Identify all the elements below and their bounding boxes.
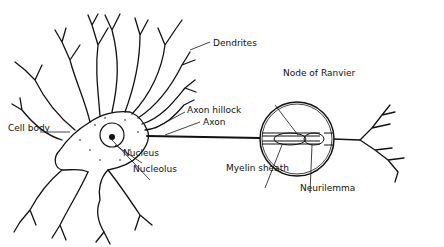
label-cell-body: Cell body (8, 123, 50, 133)
neuron-diagram: Dendrites Axon hillock Axon Cell body Nu… (0, 0, 444, 247)
label-neurilemma: Neurilemma (300, 183, 355, 193)
label-axon: Axon (203, 117, 225, 127)
nucleolus-shape (109, 134, 115, 140)
label-node-of-ranvier: Node of Ranvier (283, 68, 355, 78)
axon-line (147, 136, 260, 138)
label-dendrites: Dendrites (213, 38, 257, 48)
label-nucleus: Nucleus (123, 148, 159, 158)
label-axon-hillock: Axon hillock (187, 105, 241, 115)
label-myelin-sheath: Myelin sheath (226, 163, 289, 173)
label-nucleolus: Nucleolus (133, 164, 177, 174)
